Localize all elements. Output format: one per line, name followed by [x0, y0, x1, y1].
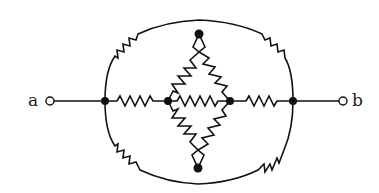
- terminal-b: [339, 97, 347, 105]
- junction-node-CL: [164, 97, 172, 105]
- junction-node-L: [101, 97, 109, 105]
- resistor-CR-R: [230, 96, 293, 106]
- terminal-label-a: a: [28, 90, 38, 110]
- junction-node-bottom: [194, 164, 203, 173]
- junction-node-R: [289, 97, 297, 105]
- resistor-CL-CR: [168, 96, 230, 106]
- resistor-CL-B: [168, 101, 198, 168]
- resistor-CL-T: [168, 34, 199, 101]
- resistor-T-CR: [199, 34, 230, 101]
- junction-node-CR: [226, 97, 234, 105]
- terminal-a: [46, 97, 54, 105]
- terminal-label-b: b: [352, 90, 363, 110]
- resistor-network-diagram: a b: [0, 0, 379, 193]
- resistor-B-CR: [198, 101, 230, 168]
- junction-node-top: [195, 30, 204, 39]
- resistor-L-CL: [105, 96, 168, 106]
